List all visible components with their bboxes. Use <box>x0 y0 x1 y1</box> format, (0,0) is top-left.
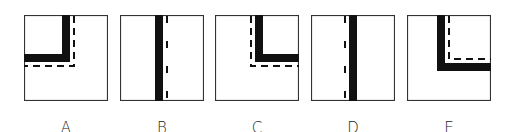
panel-e-label: E <box>407 119 491 132</box>
panel-b-label: B <box>120 119 204 132</box>
panel-d-label: D <box>311 119 395 132</box>
panel-d: D <box>311 15 395 101</box>
panel-d-diagram <box>311 15 395 101</box>
panel-e-diagram <box>407 15 491 101</box>
panel-a: A <box>24 15 108 101</box>
panel-b: B <box>120 15 204 101</box>
panel-b-diagram <box>120 15 204 101</box>
panel-a-label: A <box>24 119 108 132</box>
panel-c: C <box>215 15 299 101</box>
panel-a-diagram <box>24 15 108 101</box>
panel-c-label: C <box>215 119 299 132</box>
panel-e: E <box>407 15 491 101</box>
panel-c-diagram <box>215 15 299 101</box>
